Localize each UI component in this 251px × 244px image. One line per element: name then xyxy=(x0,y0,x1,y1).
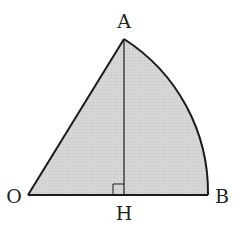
label-h: H xyxy=(116,202,133,224)
sector-diagram: A O H B xyxy=(0,0,251,244)
sector-shaded-region xyxy=(28,39,208,195)
label-a: A xyxy=(116,10,131,32)
label-o: O xyxy=(6,185,22,207)
label-b: B xyxy=(215,185,229,207)
diagram-canvas: A O H B xyxy=(0,0,251,244)
